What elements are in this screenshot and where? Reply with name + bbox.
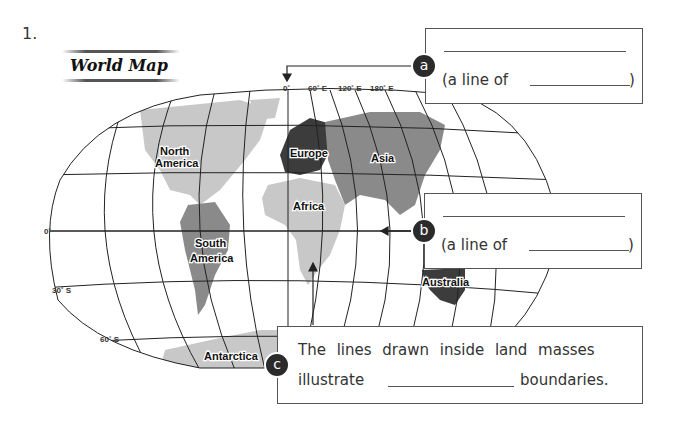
statement-c-suffix: boundaries.: [520, 371, 609, 389]
label-south-america-2: America: [190, 252, 234, 264]
answer-box-b: (a line of ): [424, 193, 642, 269]
lon-label-60e: 60˚ E: [308, 84, 328, 93]
badge-b: b: [411, 218, 437, 244]
label-europe: Europe: [290, 147, 328, 159]
line-of-suffix-b: ): [628, 236, 634, 254]
lat-label-0: 0˚: [44, 227, 51, 236]
blank-a-line-of[interactable]: [530, 85, 630, 86]
lon-label-180e: 180˚ E: [370, 84, 394, 93]
blank-b-main[interactable]: [443, 216, 625, 217]
label-north-america-2: America: [155, 157, 199, 169]
greenland-shape: [250, 98, 280, 120]
line-of-prefix-b: (a line of: [441, 236, 507, 254]
line-of-prefix-a: (a line of: [442, 71, 508, 89]
blank-a-main[interactable]: [444, 51, 626, 52]
line-of-suffix-a: ): [629, 71, 635, 89]
label-africa: Africa: [293, 200, 325, 212]
lat-label-30s: 30˚ S: [52, 286, 72, 295]
label-north-america-1: North: [160, 145, 190, 157]
statement-c-line1: The lines drawn inside land masses: [298, 341, 595, 359]
badge-a: a: [411, 53, 437, 79]
lat-label-60s: 60˚ S: [100, 335, 120, 344]
label-australia: Australia: [422, 276, 470, 288]
label-south-america-1: South: [195, 237, 226, 249]
blank-b-line-of[interactable]: [529, 250, 629, 251]
lon-label-0: 0˚: [283, 84, 290, 93]
answer-box-a: (a line of ): [425, 28, 643, 104]
badge-c: c: [264, 352, 290, 378]
lon-label-120e: 120˚ E: [338, 84, 362, 93]
label-asia: Asia: [371, 152, 395, 164]
statement-c-prefix: illustrate: [298, 371, 364, 389]
blank-c-boundaries[interactable]: [388, 386, 514, 387]
label-antarctica: Antarctica: [204, 350, 259, 362]
answer-box-c: The lines drawn inside land masses illus…: [277, 326, 643, 404]
